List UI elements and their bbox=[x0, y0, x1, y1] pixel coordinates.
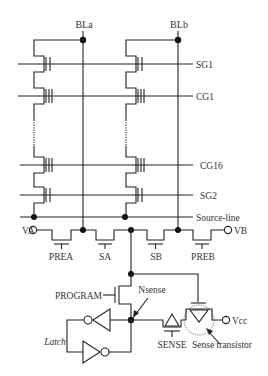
latch-label: Latch bbox=[43, 337, 66, 347]
bitline-a-label: BLa bbox=[75, 19, 93, 30]
sense-transistor-label: Sense transistor bbox=[192, 340, 253, 350]
cg16-label: CG16 bbox=[200, 161, 223, 171]
latch-upper-bubble bbox=[84, 316, 92, 324]
preb-label: PREB bbox=[191, 252, 215, 262]
bitline-b-bottom-node bbox=[175, 227, 181, 233]
nsense-label: Nsense bbox=[138, 285, 165, 295]
bitline-b-label: BLb bbox=[170, 19, 188, 30]
sense-label: SENSE bbox=[157, 340, 186, 350]
program-label: PROGRAM bbox=[55, 291, 103, 301]
vcc-terminal bbox=[222, 316, 229, 323]
vb-label: VB bbox=[234, 226, 247, 236]
nsense-arrow bbox=[133, 298, 148, 318]
source-line-label: Source-line bbox=[196, 213, 240, 223]
string-a-source-node bbox=[31, 214, 37, 220]
latch bbox=[67, 309, 131, 363]
sense-transistor bbox=[184, 303, 222, 335]
vcc-label: Vcc bbox=[232, 316, 247, 326]
sg2-label: SG2 bbox=[200, 191, 217, 201]
nand-string-b bbox=[122, 40, 178, 220]
nand-string-circuit-diagram: BLa BLb SG1 CG1 CG16 SG2 Source-line bbox=[0, 0, 268, 376]
sg1-label: SG1 bbox=[196, 60, 213, 70]
string-b-source-node bbox=[122, 214, 128, 220]
sb-label: SB bbox=[150, 252, 162, 262]
latch-upper-inverter bbox=[93, 309, 110, 331]
vb-terminal bbox=[224, 226, 231, 233]
latch-lower-inverter bbox=[83, 341, 100, 363]
bitline-a-bottom-node bbox=[80, 227, 86, 233]
nand-string-a bbox=[31, 40, 83, 220]
prea-label: PREA bbox=[49, 252, 73, 262]
program-transistor bbox=[103, 274, 131, 320]
cg1-label: CG1 bbox=[196, 92, 214, 102]
sa-label: SA bbox=[99, 252, 111, 262]
latch-lower-bubble bbox=[101, 348, 109, 356]
va-label: VA bbox=[22, 226, 35, 236]
sense-pass-transistor bbox=[131, 314, 186, 337]
